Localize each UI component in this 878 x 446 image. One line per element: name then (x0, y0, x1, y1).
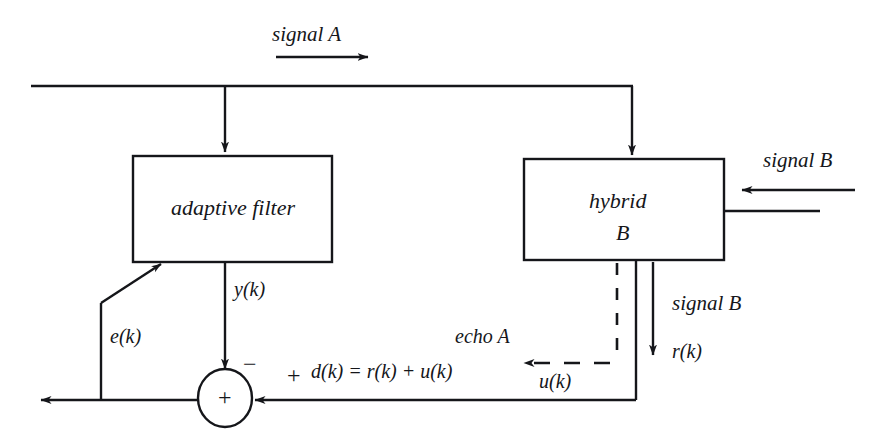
y-signal-label: y(k) (234, 279, 265, 299)
summing-node-plus: + (218, 385, 232, 409)
signal-b-input-label: signal B (763, 150, 832, 171)
echo-cancellation-diagram: signal A signal B signal B adaptive filt… (0, 0, 878, 446)
signal-a-label: signal A (272, 24, 341, 45)
e-signal-label: e(k) (110, 326, 141, 346)
hybrid-b-label-line1: hybrid (589, 190, 646, 212)
u-signal-label: u(k) (539, 371, 571, 391)
adaptive-filter-label: adaptive filter (171, 197, 295, 219)
minus-sign: − (243, 352, 257, 376)
hybrid-b-label-line2: B (616, 222, 629, 244)
echo-a-dashed-path (524, 263, 617, 363)
signal-b-middle-label: signal B (672, 293, 741, 314)
r-signal-label: r(k) (672, 341, 702, 361)
echo-a-label: echo A (455, 326, 510, 346)
plus-sign-input: + (287, 363, 301, 387)
d-equation-label: d(k) = r(k) + u(k) (311, 361, 452, 381)
